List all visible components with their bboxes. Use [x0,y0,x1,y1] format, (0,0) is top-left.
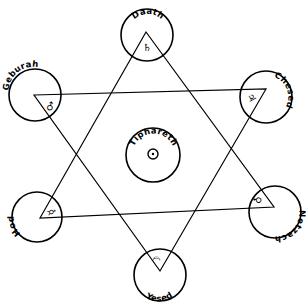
hexagram-diagram: Daath ♄ Geburah ♂ Chesed ♃ Tiphareth Hod… [0,0,308,305]
sun-icon-dot [152,153,154,155]
svg-text:Chesed: Chesed [273,70,296,110]
sephirah-yesod: Yesed ☽ [134,249,186,304]
upward-triangle [40,32,274,218]
svg-text:Tiphareth: Tiphareth [127,126,180,148]
svg-text:Yesed: Yesed [144,290,175,304]
saturn-icon: ♄ [143,42,152,53]
daath-label: Daath [130,6,167,21]
sephirah-chesed: Chesed ♃ [240,70,296,123]
netzach-label: Netzach [274,210,307,244]
svg-text:Geburah: Geburah [1,59,40,91]
tiphareth-label: Tiphareth [127,126,180,148]
venus-icon: ♀ [251,195,263,204]
chesed-label: Chesed [273,70,296,110]
moon-icon: ☽ [151,256,162,265]
mercury-icon: ☿ [45,207,57,217]
geburah-label: Geburah [1,59,40,91]
sephirah-tiphareth: Tiphareth [126,126,180,182]
sephirah-netzach: Netzach ♀ [249,186,307,244]
jupiter-icon: ♃ [244,91,258,104]
yesod-label: Yesed [144,290,175,304]
downward-triangle [34,89,266,271]
svg-text:Netzach: Netzach [274,210,307,244]
sephirah-geburah: Geburah ♂ [1,59,61,121]
svg-text:Daath: Daath [130,6,167,21]
